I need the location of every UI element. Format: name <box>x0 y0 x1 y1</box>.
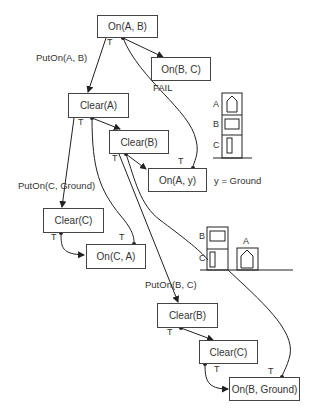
edge-cleara-clearc <box>62 118 74 207</box>
edge-onab-cleara <box>88 38 106 92</box>
node-clear-c-top: Clear(C) <box>43 208 104 233</box>
true-marker: T <box>112 153 118 163</box>
label-put-on-b-c: PutOn(B, C) <box>145 279 197 290</box>
node-clear-a: Clear(A) <box>68 93 129 118</box>
true-marker: T <box>214 364 220 374</box>
label-fail: FAIL <box>153 82 173 93</box>
block-label-a: A <box>243 236 249 246</box>
label-put-on-a-b: PutOn(A, B) <box>36 52 87 63</box>
edge-clearc-onca <box>61 233 84 255</box>
edge-onab-onbc <box>123 38 163 57</box>
true-marker: T <box>107 37 113 47</box>
node-clear-b-top: Clear(B) <box>109 130 169 154</box>
edge-clearb2-clearc2 <box>181 328 213 340</box>
node-on-a-b: On(A, B) <box>97 15 158 38</box>
node-on-b-c: On(B, C) <box>151 57 211 81</box>
block-label-a: A <box>213 99 219 109</box>
node-on-a-y: On(A, y) <box>148 168 207 192</box>
label-put-on-c-ground: PutOn(C, Ground) <box>18 180 95 191</box>
label-binding: y = Ground <box>214 175 261 186</box>
true-marker: T <box>78 117 84 127</box>
block-label-c: C <box>213 140 220 150</box>
block-label-b: B <box>213 119 219 129</box>
true-marker: T <box>268 366 274 376</box>
node-clear-c-bottom: Clear(C) <box>199 340 258 364</box>
true-marker: T <box>119 232 125 242</box>
node-on-c-a: On(C, A) <box>86 244 146 269</box>
node-clear-b-bottom: Clear(B) <box>157 303 218 328</box>
scene-intermediate <box>200 227 293 270</box>
block-label-b: B <box>199 231 205 241</box>
true-marker: T <box>178 156 184 166</box>
edge-cleara-clearb <box>92 118 120 129</box>
node-on-b-ground: On(B, Ground) <box>229 377 300 401</box>
true-marker: T <box>51 232 57 242</box>
block-label-c: C <box>199 253 206 263</box>
true-marker: T <box>167 327 173 337</box>
